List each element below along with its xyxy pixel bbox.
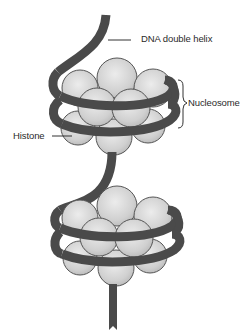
nucleosome-top — [53, 15, 176, 210]
nucleosome-label: Nucleosome — [188, 97, 240, 108]
dna-wrap-lower-back — [55, 232, 62, 254]
nucleosome-bracket — [178, 80, 187, 128]
dna-wrap-upper-back — [55, 210, 60, 228]
dna-strand-top — [58, 15, 106, 72]
dna-wrap-upper-back — [53, 72, 60, 96]
nucleosome-diagram: DNA double helix Nucleosome Histone — [0, 0, 252, 336]
histone-label: Histone — [13, 130, 45, 141]
nucleosome-bottom — [55, 186, 180, 330]
dna-wrap-lower-back — [53, 100, 62, 124]
diagram-canvas — [0, 0, 252, 336]
dna-double-helix-label: DNA double helix — [141, 33, 212, 44]
dna-strand-bottom — [109, 284, 117, 330]
